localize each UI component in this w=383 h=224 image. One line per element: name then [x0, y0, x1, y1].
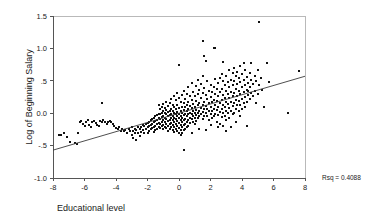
- data-point: [200, 97, 202, 99]
- data-point: [239, 81, 241, 83]
- data-point: [170, 98, 172, 100]
- data-point: [198, 102, 200, 104]
- data-point: [139, 128, 141, 130]
- data-point: [266, 62, 268, 64]
- data-point: [257, 93, 259, 95]
- data-point: [165, 101, 167, 103]
- data-point: [176, 120, 178, 122]
- data-point: [219, 123, 221, 125]
- x-tick-label: -2: [144, 183, 151, 192]
- data-point: [239, 104, 241, 106]
- data-point: [235, 108, 237, 110]
- data-point: [247, 82, 249, 84]
- data-point: [210, 96, 212, 98]
- data-point: [235, 75, 237, 77]
- data-point: [178, 122, 180, 124]
- data-point: [194, 106, 196, 108]
- data-point: [250, 79, 252, 81]
- regression-line-group: [53, 76, 305, 150]
- data-point: [213, 86, 215, 88]
- data-point: [191, 99, 193, 101]
- data-point: [228, 117, 230, 119]
- data-point: [197, 112, 199, 114]
- data-point: [159, 127, 161, 129]
- data-point: [134, 132, 136, 134]
- data-point: [173, 106, 175, 108]
- x-tick-label: 0: [177, 183, 181, 192]
- data-point: [244, 84, 246, 86]
- data-point: [224, 84, 226, 86]
- data-point: [131, 134, 133, 136]
- data-point: [162, 110, 164, 112]
- data-point: [167, 130, 169, 132]
- data-point: [187, 119, 189, 121]
- data-point: [238, 90, 240, 92]
- data-point: [208, 110, 210, 112]
- data-point: [202, 118, 204, 120]
- data-point: [247, 90, 249, 92]
- data-point: [176, 115, 178, 117]
- data-point: [139, 135, 141, 137]
- data-point: [224, 97, 226, 99]
- data-point: [214, 104, 216, 106]
- data-point: [238, 77, 240, 79]
- data-point: [153, 131, 155, 133]
- data-point: [211, 117, 213, 119]
- data-point: [175, 99, 177, 101]
- data-point: [143, 125, 145, 127]
- data-point: [172, 119, 174, 121]
- data-point: [112, 123, 114, 125]
- data-point: [214, 78, 216, 80]
- data-point: [225, 110, 227, 112]
- data-point: [77, 132, 79, 134]
- data-point: [159, 113, 161, 115]
- data-points-group: [58, 21, 299, 151]
- data-point: [255, 102, 257, 104]
- data-point: [252, 95, 254, 97]
- data-point: [192, 115, 194, 117]
- data-point: [180, 134, 182, 136]
- data-point: [183, 102, 185, 104]
- data-point: [238, 100, 240, 102]
- data-point: [60, 134, 62, 136]
- data-point: [247, 94, 249, 96]
- data-point: [178, 107, 180, 109]
- data-point: [162, 128, 164, 130]
- data-point: [236, 71, 238, 73]
- data-point: [167, 105, 169, 107]
- data-point: [184, 113, 186, 115]
- data-point: [246, 125, 248, 127]
- data-point: [206, 80, 208, 82]
- data-point: [202, 40, 204, 42]
- data-point: [224, 115, 226, 117]
- data-point: [200, 113, 202, 115]
- data-point: [176, 125, 178, 127]
- data-point: [180, 119, 182, 121]
- data-point: [162, 103, 164, 105]
- data-point: [298, 70, 300, 72]
- data-point: [219, 91, 221, 93]
- data-point: [129, 130, 131, 132]
- regression-line: [53, 76, 305, 150]
- data-point: [181, 94, 183, 96]
- data-point: [181, 126, 183, 128]
- data-point: [222, 125, 224, 127]
- data-point: [236, 104, 238, 106]
- data-point: [191, 82, 193, 84]
- data-point: [222, 104, 224, 106]
- data-point: [219, 111, 221, 113]
- data-point: [246, 76, 248, 78]
- data-point: [225, 75, 227, 77]
- data-point: [219, 77, 221, 79]
- data-point: [181, 117, 183, 119]
- data-point: [217, 106, 219, 108]
- data-point: [195, 120, 197, 122]
- data-point: [243, 102, 245, 104]
- data-point: [63, 132, 65, 134]
- data-point: [258, 84, 260, 86]
- data-point: [216, 121, 218, 123]
- data-point: [118, 126, 120, 128]
- data-point: [197, 117, 199, 119]
- x-tick-label: -4: [113, 183, 120, 192]
- data-point: [205, 94, 207, 96]
